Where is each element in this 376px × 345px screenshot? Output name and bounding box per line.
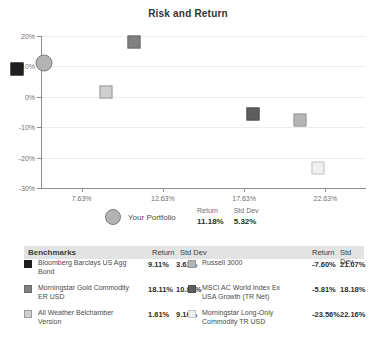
x-axis-line	[41, 188, 366, 189]
y-axis-tick	[37, 97, 41, 98]
benchmark-return-value: 9.11%	[148, 260, 169, 269]
data-point-marker[interactable]	[36, 54, 53, 71]
portfolio-return-header: Return	[197, 206, 224, 216]
x-axis-tick	[82, 188, 83, 192]
table-header-row: Benchmarks Return Std Dev Return Std Dev	[24, 246, 364, 259]
x-axis-tick-label: 12.63%	[151, 195, 175, 202]
benchmark-name: Morningstar Long-Only Commodity TR USD	[202, 309, 294, 326]
benchmark-return-value: 1.61%	[148, 310, 169, 319]
table-row[interactable]: MSCI AC World Index Ex USA Growth (TR Ne…	[188, 284, 368, 306]
your-portfolio-label: Your Portfolio	[128, 213, 176, 222]
x-axis-tick-label: 17.63%	[232, 195, 256, 202]
y-axis-tick	[37, 188, 41, 189]
portfolio-stddev-header: Std Dev	[234, 206, 259, 216]
gridline	[42, 66, 366, 67]
y-axis-tick-label: -10%	[19, 124, 35, 131]
benchmark-return-value: -7.60%	[312, 260, 336, 269]
y-axis-tick-label: 20%	[21, 33, 35, 40]
benchmark-stddev-value: 22.16%	[340, 310, 365, 319]
gridline	[42, 158, 366, 159]
benchmark-return-value: -23.56%	[312, 310, 340, 319]
benchmark-return-value: -5.81%	[312, 285, 336, 294]
table-body: Bloomberg Barclays US Agg Bond9.11%3.63%…	[24, 259, 364, 335]
benchmark-color-swatch-icon	[24, 310, 32, 318]
column-header-benchmarks: Benchmarks	[28, 248, 76, 257]
data-point-marker[interactable]	[247, 108, 260, 121]
gridline	[42, 36, 366, 37]
portfolio-return-stat: Return 11.18%	[197, 206, 224, 227]
portfolio-stddev-stat: Std Dev 5.32%	[234, 206, 259, 227]
y-axis-tick-label: 0%	[25, 93, 35, 100]
benchmarks-table: Benchmarks Return Std Dev Return Std Dev…	[24, 246, 364, 335]
benchmark-color-swatch-icon	[188, 285, 196, 293]
gridline	[42, 97, 366, 98]
data-point-marker[interactable]	[99, 85, 112, 98]
x-axis-tick	[244, 188, 245, 192]
data-point-marker[interactable]	[128, 35, 141, 48]
column-header-stddev-left: Std Dev	[180, 248, 207, 257]
y-axis-tick	[37, 36, 41, 37]
y-axis-tick-label: -30%	[19, 185, 35, 192]
benchmark-name: Russell 3000	[202, 259, 294, 268]
benchmark-stddev-value: 18.18%	[340, 285, 365, 294]
y-axis-tick	[37, 127, 41, 128]
x-axis-tick-label: 22.63%	[314, 195, 338, 202]
benchmark-return-value: 18.11%	[148, 285, 173, 294]
portfolio-stddev-value: 5.32%	[234, 216, 259, 227]
benchmark-color-swatch-icon	[188, 260, 196, 268]
column-header-return-left: Return	[152, 248, 175, 257]
y-axis-tick	[37, 158, 41, 159]
benchmark-color-swatch-icon	[24, 285, 32, 293]
gridline	[42, 127, 366, 128]
x-axis-tick	[163, 188, 164, 192]
x-axis-tick	[325, 188, 326, 192]
benchmark-color-swatch-icon	[188, 310, 196, 318]
benchmark-name: All Weather Belchamber Version	[38, 309, 130, 326]
x-axis-tick-label: 7.63%	[72, 195, 92, 202]
table-row[interactable]: Morningstar Gold Commodity ER USD18.11%1…	[24, 284, 204, 306]
benchmark-name: Bloomberg Barclays US Agg Bond	[38, 259, 130, 276]
column-header-return-right: Return	[312, 248, 335, 257]
data-point-marker[interactable]	[294, 113, 307, 126]
y-axis-tick-label: -20%	[19, 154, 35, 161]
table-row[interactable]: All Weather Belchamber Version1.61%9.10%	[24, 309, 204, 331]
benchmark-name: Morningstar Gold Commodity ER USD	[38, 284, 130, 301]
page-title: Risk and Return	[0, 8, 376, 19]
data-point-marker[interactable]	[311, 162, 324, 175]
your-portfolio-marker-icon	[105, 209, 121, 225]
scatter-plot: 20%10%0%-10%-20%-30% 7.63%12.63%17.63%22…	[41, 36, 366, 188]
benchmark-color-swatch-icon	[24, 260, 32, 268]
benchmark-stddev-value: 21.07%	[340, 260, 365, 269]
portfolio-return-value: 11.18%	[197, 216, 224, 227]
table-row[interactable]: Bloomberg Barclays US Agg Bond9.11%3.63%	[24, 259, 204, 281]
portfolio-legend: Your Portfolio	[105, 209, 176, 225]
table-row[interactable]: Morningstar Long-Only Commodity TR USD-2…	[188, 309, 368, 331]
table-row[interactable]: Russell 3000-7.60%21.07%	[188, 259, 368, 281]
data-point-marker[interactable]	[10, 63, 23, 76]
portfolio-stats: Return 11.18% Std Dev 5.32%	[197, 206, 259, 227]
benchmark-name: MSCI AC World Index Ex USA Growth (TR Ne…	[202, 284, 294, 301]
